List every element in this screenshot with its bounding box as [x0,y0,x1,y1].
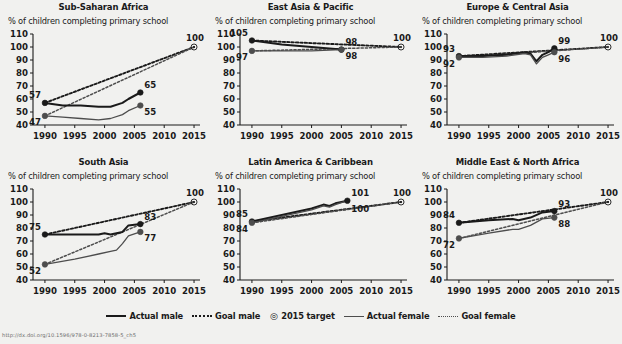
data-point-marker [552,49,558,55]
panel-title: East Asia & Pacific [207,2,414,12]
plot-area: 4050607080901001101990199520002005201020… [207,28,414,150]
legend-row: Actual male Goal male ◎ 2015 target Actu… [0,311,622,321]
data-point-label: 84 [443,210,455,220]
target-marker-dot [607,201,609,203]
y-tick-label: 40 [16,275,28,285]
y-tick-label: 90 [16,210,28,220]
series-line [45,232,140,265]
plot-svg: 4050607080901001101990199520002005201020… [207,28,414,150]
plot-svg: 4050607080901001101990199520002005201020… [414,28,621,150]
panel-subtitle: % of children completing primary school [8,171,168,181]
legend-label: Goal male [215,311,260,321]
chart-panel: Sub-Saharan Africa % of children complet… [0,0,207,155]
data-point-marker [552,215,558,221]
legend-item-actual-male: Actual male [106,311,183,321]
target-label: 100 [600,33,618,43]
primary-school-completion-figure: Sub-Saharan Africa % of children complet… [0,0,622,344]
data-point-label: 57 [29,90,41,100]
y-tick-label: 70 [223,236,235,246]
legend-item-goal-male: Goal male [192,311,260,321]
series-line [45,202,194,235]
data-point-marker [138,103,144,109]
data-point-label: 93 [558,199,570,209]
y-tick-label: 110 [10,29,28,39]
y-tick-label: 40 [223,275,235,285]
y-tick-label: 90 [430,55,442,65]
x-tick-label: 2005 [122,131,146,141]
x-tick-label: 2010 [359,131,383,141]
y-tick-label: 100 [424,197,442,207]
x-tick-label: 1990 [447,286,471,296]
y-tick-label: 50 [16,107,28,117]
data-point-label: 72 [443,240,455,250]
x-tick-label: 2000 [507,131,531,141]
source-doi-footer: http://dx.doi.org/10.1596/978-0-8213-785… [2,332,136,338]
x-tick-label: 2000 [507,286,531,296]
y-tick-label: 60 [223,249,235,259]
data-point-label: 85 [236,209,248,219]
plot-svg: 4050607080901001101990199520002005201020… [0,183,207,305]
y-tick-label: 50 [16,262,28,272]
data-point-marker [345,198,351,204]
legend-label: Actual female [367,311,430,321]
plot-svg: 4050607080901001101990199520002005201020… [414,183,621,305]
x-tick-label: 2010 [566,131,590,141]
x-tick-label: 2000 [93,286,117,296]
x-tick-label: 1995 [63,286,87,296]
y-tick-label: 70 [16,81,28,91]
y-tick-label: 60 [16,249,28,259]
y-tick-label: 40 [430,120,442,130]
x-tick-label: 2015 [182,286,206,296]
y-tick-label: 60 [223,94,235,104]
legend: Actual male Goal male ◎ 2015 target Actu… [0,311,622,329]
x-tick-label: 1995 [63,131,87,141]
data-point-label: 77 [144,233,156,243]
panel-title: South Asia [0,157,207,167]
legend-item-actual-female: Actual female [344,311,430,321]
y-tick-label: 90 [430,210,442,220]
target-label: 100 [393,188,411,198]
x-tick-label: 2005 [536,286,560,296]
panel-subtitle: % of children completing primary school [422,171,582,181]
target-label: 100 [186,188,204,198]
y-tick-label: 100 [10,197,28,207]
x-tick-label: 1990 [33,286,57,296]
data-point-label: 99 [558,36,570,46]
x-tick-label: 2015 [182,131,206,141]
y-tick-label: 70 [430,236,442,246]
y-tick-label: 70 [430,81,442,91]
series-line [45,106,140,120]
y-tick-label: 110 [217,184,235,194]
y-tick-label: 50 [430,262,442,272]
data-point-label: 100 [351,204,369,214]
target-marker-dot [400,46,402,48]
y-tick-label: 40 [16,120,28,130]
y-tick-label: 100 [217,197,235,207]
plot-svg: 4050607080901001101990199520002005201020… [207,183,414,305]
target-marker-dot [400,201,402,203]
data-point-marker [339,47,345,53]
x-tick-label: 1990 [240,131,264,141]
data-point-marker [249,48,255,54]
chart-panel: East Asia & Pacific % of children comple… [207,0,414,155]
x-tick-label: 1995 [270,131,294,141]
data-point-marker [42,113,48,119]
y-tick-label: 50 [430,107,442,117]
y-tick-label: 90 [223,55,235,65]
plot-area: 4050607080901001101990199520002005201020… [0,183,207,305]
data-point-label: 98 [345,51,357,61]
data-point-marker [456,236,462,242]
target-marker-dot [193,201,195,203]
target-label: 100 [186,33,204,43]
data-point-label: 96 [558,54,570,64]
plot-area: 4050607080901001101990199520002005201020… [414,28,621,150]
data-point-label: 65 [144,80,156,90]
data-point-marker [456,220,462,226]
y-tick-label: 110 [424,184,442,194]
data-point-label: 52 [29,266,41,276]
x-tick-label: 1990 [240,286,264,296]
y-tick-label: 80 [223,68,235,78]
data-point-label: 101 [351,188,369,198]
legend-label: Actual male [129,311,183,321]
panel-title: Middle East & North Africa [414,157,621,167]
